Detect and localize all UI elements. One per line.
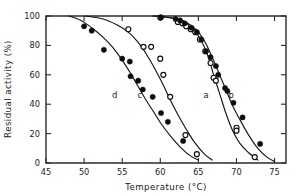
y-tick-label: 100 — [24, 11, 40, 21]
x-tick-label: 55 — [117, 167, 127, 177]
data-point-c — [158, 56, 163, 61]
data-point-d — [136, 78, 141, 83]
data-point-d — [82, 24, 87, 29]
data-point-b — [208, 55, 213, 60]
data-point-b — [158, 15, 163, 20]
axis-frame-group — [46, 16, 286, 163]
data-point-d — [128, 74, 133, 79]
data-point-b — [203, 49, 208, 54]
curve-label-a: a — [203, 90, 208, 100]
y-tick-label: 80 — [30, 40, 40, 50]
x-tick-label: 60 — [155, 167, 165, 177]
curve-label-c: c — [137, 90, 142, 100]
data-point-d — [158, 110, 163, 115]
data-point-b — [182, 21, 187, 26]
y-tick-label: 60 — [30, 70, 40, 80]
data-point-c — [168, 94, 173, 99]
curve-label-b: b — [228, 90, 233, 100]
data-point-a — [252, 155, 257, 160]
y-tick-label: 20 — [30, 129, 40, 139]
fit-curve-b — [154, 16, 274, 162]
x-tick-label: 50 — [79, 167, 89, 177]
data-point-d — [181, 138, 186, 143]
data-point-b — [189, 25, 194, 30]
plot-frame — [46, 16, 286, 163]
data-point-b — [231, 100, 236, 105]
data-point-d — [89, 28, 94, 33]
y-axis-title: Residual activity (%) — [3, 40, 13, 138]
curve-label-d: d — [112, 90, 117, 100]
fit-curve-c — [86, 16, 212, 160]
data-point-b — [258, 141, 263, 146]
data-point-d — [127, 59, 132, 64]
fit-curves-group — [69, 16, 275, 162]
data-point-d — [101, 47, 106, 52]
data-point-a — [234, 128, 239, 133]
data-point-b — [213, 63, 218, 68]
data-point-b — [178, 18, 183, 23]
x-tick-label: 70 — [231, 167, 241, 177]
data-point-b — [240, 115, 245, 120]
x-axis-title: Temperature (°C) — [124, 182, 206, 192]
data-point-d — [150, 94, 155, 99]
data-point-d — [120, 56, 125, 61]
data-point-d — [165, 119, 170, 124]
data-point-a — [208, 61, 213, 66]
data-point-c — [183, 133, 188, 138]
chart-figure: 45505560657075020406080100 abcd Temperat… — [0, 0, 308, 196]
data-point-c — [141, 44, 146, 49]
residual-activity-plot: 45505560657075020406080100 abcd Temperat… — [0, 0, 308, 196]
x-tick-label: 75 — [269, 167, 279, 177]
data-point-c — [126, 27, 131, 32]
data-point-c — [194, 152, 199, 157]
data-point-c — [149, 44, 154, 49]
y-tick-label: 0 — [35, 158, 40, 168]
data-point-b — [194, 30, 199, 35]
data-point-a — [213, 78, 218, 83]
axis-ticks-group — [46, 16, 286, 163]
data-point-c — [161, 72, 166, 77]
data-point-b — [199, 37, 204, 42]
y-tick-label: 40 — [30, 99, 40, 109]
fit-curve-a — [153, 16, 258, 160]
tick-labels-group: 45505560657075020406080100 — [24, 11, 279, 177]
x-tick-label: 45 — [41, 167, 51, 177]
data-point-b — [216, 72, 221, 77]
x-tick-label: 65 — [193, 167, 203, 177]
